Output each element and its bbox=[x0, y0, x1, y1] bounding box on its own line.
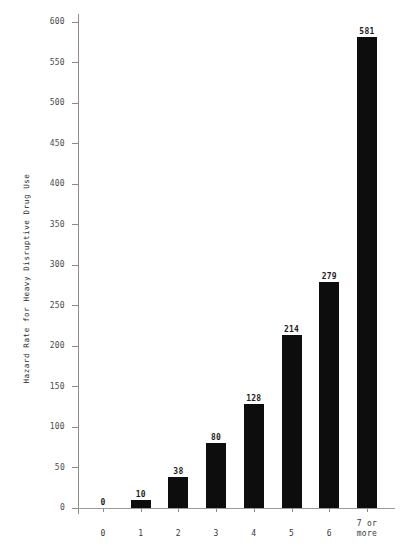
y-tick-mark bbox=[72, 224, 78, 225]
bar-value-label: 279 bbox=[310, 272, 348, 281]
y-tick-label: 250 bbox=[50, 301, 65, 311]
y-tick: 500 bbox=[0, 98, 78, 108]
y-tick-mark bbox=[72, 62, 78, 63]
bar-value-label: 214 bbox=[273, 325, 311, 334]
x-tick-mark bbox=[254, 508, 255, 512]
x-tick-mark bbox=[141, 508, 142, 512]
x-axis-line bbox=[78, 508, 395, 509]
y-tick-label: 600 bbox=[50, 17, 65, 27]
y-tick-mark bbox=[72, 184, 78, 185]
x-tick-label: 7 ormore bbox=[344, 519, 390, 539]
plot-area: 050100150200250300350400450500550600 010… bbox=[0, 0, 403, 553]
y-tick-mark bbox=[72, 305, 78, 306]
bar-item: 128 bbox=[235, 394, 273, 508]
bar-rect bbox=[244, 404, 264, 508]
bar-value-label: 581 bbox=[348, 27, 386, 36]
y-tick: 100 bbox=[0, 422, 78, 432]
y-tick-label: 50 bbox=[55, 463, 65, 473]
bar-chart: Hazard Rate for Heavy Disruptive Drug Us… bbox=[0, 0, 403, 553]
x-tick-label-line: 7 or bbox=[357, 519, 377, 528]
y-tick: 200 bbox=[0, 341, 78, 351]
x-tick-label-line: 4 bbox=[251, 529, 256, 538]
bar-value-label: 128 bbox=[235, 394, 273, 403]
y-tick-label: 450 bbox=[50, 139, 65, 149]
bar-item: 38 bbox=[159, 467, 197, 508]
y-tick: 450 bbox=[0, 139, 78, 149]
bar-rect bbox=[206, 443, 226, 508]
x-tick-label-line: 0 bbox=[100, 529, 105, 538]
y-tick-label: 300 bbox=[50, 260, 65, 270]
y-tick-mark bbox=[72, 265, 78, 266]
y-tick-mark bbox=[72, 346, 78, 347]
bar-item: 214 bbox=[273, 325, 311, 508]
x-tick-label-line: more bbox=[344, 529, 390, 539]
y-tick: 300 bbox=[0, 260, 78, 270]
x-tick-mark bbox=[216, 508, 217, 512]
y-tick-label: 350 bbox=[50, 220, 65, 230]
x-tick-mark bbox=[329, 508, 330, 512]
x-tick-label-line: 2 bbox=[176, 529, 181, 538]
y-tick: 400 bbox=[0, 179, 78, 189]
y-tick: 600 bbox=[0, 17, 78, 27]
y-tick-label: 100 bbox=[50, 422, 65, 432]
bar-rect bbox=[357, 37, 377, 508]
bar-item: 0 bbox=[84, 498, 122, 508]
bar-rect bbox=[131, 500, 151, 508]
y-tick: 350 bbox=[0, 220, 78, 230]
y-tick: 150 bbox=[0, 382, 78, 392]
y-tick-mark bbox=[72, 103, 78, 104]
x-tick-mark bbox=[178, 508, 179, 512]
y-axis-line bbox=[78, 14, 79, 514]
bar-item: 581 bbox=[348, 27, 386, 508]
y-tick-label: 200 bbox=[50, 341, 65, 351]
bar-value-label: 38 bbox=[159, 467, 197, 476]
x-tick-mark bbox=[292, 508, 293, 512]
y-tick-mark bbox=[72, 467, 78, 468]
x-tick-label-line: 6 bbox=[327, 529, 332, 538]
y-tick-label: 150 bbox=[50, 382, 65, 392]
y-tick-mark bbox=[72, 22, 78, 23]
y-tick-label: 400 bbox=[50, 179, 65, 189]
bar-value-label: 0 bbox=[84, 498, 122, 507]
bar-rect bbox=[282, 335, 302, 508]
x-tick-label-line: 1 bbox=[138, 529, 143, 538]
bar-value-label: 10 bbox=[122, 490, 160, 499]
bar-item: 279 bbox=[310, 272, 348, 508]
x-tick-mark bbox=[103, 508, 104, 512]
bar-value-label: 80 bbox=[197, 433, 235, 442]
y-tick: 50 bbox=[0, 463, 78, 473]
y-tick-mark bbox=[72, 143, 78, 144]
x-tick-label-line: 5 bbox=[289, 529, 294, 538]
y-tick-label: 0 bbox=[60, 503, 65, 513]
y-tick: 0 bbox=[0, 503, 78, 513]
bar-rect bbox=[168, 477, 188, 508]
x-tick-mark bbox=[367, 508, 368, 512]
x-tick-label-line: 3 bbox=[214, 529, 219, 538]
y-tick-mark bbox=[72, 386, 78, 387]
y-tick-mark bbox=[72, 508, 78, 509]
y-tick: 550 bbox=[0, 58, 78, 68]
y-tick: 250 bbox=[0, 301, 78, 311]
y-tick-label: 550 bbox=[50, 58, 65, 68]
y-tick-mark bbox=[72, 427, 78, 428]
bar-item: 10 bbox=[122, 490, 160, 508]
bar-rect bbox=[319, 282, 339, 508]
y-tick-label: 500 bbox=[50, 98, 65, 108]
bar-item: 80 bbox=[197, 433, 235, 508]
